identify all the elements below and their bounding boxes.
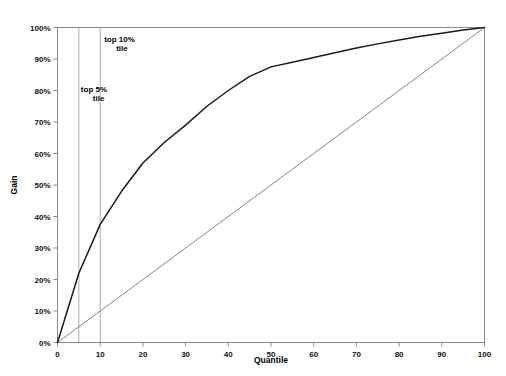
annotation-label-line1: top 5% — [81, 85, 107, 94]
x-tick-label: 90 — [437, 350, 446, 359]
y-tick-label: 0% — [39, 339, 51, 348]
y-tick-label: 60% — [34, 150, 50, 159]
y-tick-label: 40% — [34, 213, 50, 222]
x-tick-label: 0 — [55, 350, 60, 359]
y-axis-label: Gain — [9, 176, 19, 195]
x-tick-label: 80 — [395, 350, 404, 359]
annotation-label-line1: top 10% — [104, 35, 135, 44]
annotation-label-line2: tile — [116, 44, 128, 53]
y-tick-label: 30% — [34, 244, 50, 253]
y-tick-label: 10% — [34, 307, 50, 316]
x-tick-label: 60 — [309, 350, 318, 359]
chart-background — [0, 0, 506, 376]
y-tick-label: 50% — [34, 181, 50, 190]
x-tick-label: 40 — [224, 350, 233, 359]
y-tick-label: 70% — [34, 118, 50, 127]
x-tick-label: 10 — [96, 350, 105, 359]
x-tick-label: 20 — [138, 350, 147, 359]
gain-chart-container: 0%10%20%30%40%50%60%70%80%90%100% 010203… — [0, 0, 506, 376]
cumulative-gain-chart: 0%10%20%30%40%50%60%70%80%90%100% 010203… — [0, 0, 506, 376]
y-tick-label: 80% — [34, 87, 50, 96]
y-tick-label: 90% — [34, 55, 50, 64]
annotation-label-line2: tile — [93, 94, 105, 103]
x-axis-label: Quantile — [254, 355, 288, 365]
x-tick-label: 70 — [352, 350, 361, 359]
y-tick-label: 100% — [30, 24, 50, 33]
x-tick-label: 100 — [478, 350, 492, 359]
y-tick-label: 20% — [34, 276, 50, 285]
x-tick-label: 30 — [181, 350, 190, 359]
